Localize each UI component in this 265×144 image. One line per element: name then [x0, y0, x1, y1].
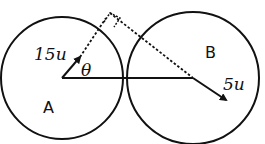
velocity-b-label: 5u — [223, 74, 245, 94]
velocity-a-dashed — [80, 18, 106, 57]
velocity-b-arrow — [193, 78, 226, 100]
collision-diagram: 15u θ A B 5u — [0, 0, 265, 144]
angle-label: θ — [81, 60, 91, 80]
circle-a-label: A — [43, 98, 54, 117]
velocity-a-label: 15u — [34, 44, 67, 64]
circle-b-label: B — [205, 43, 216, 62]
